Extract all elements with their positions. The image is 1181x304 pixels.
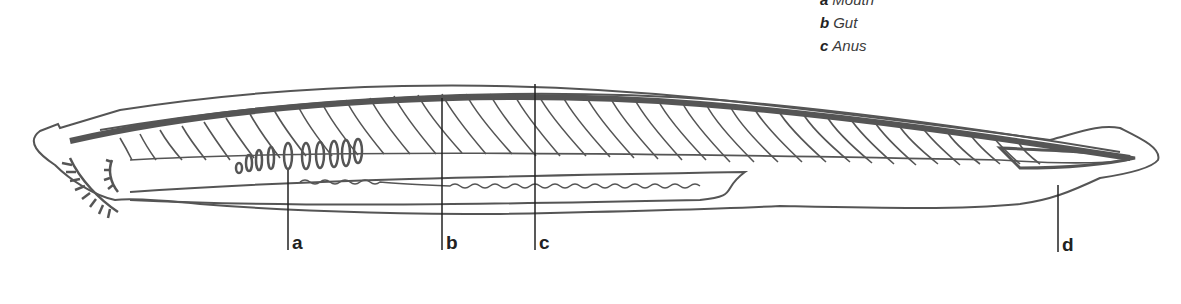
notochord bbox=[70, 97, 1130, 158]
label-a: a bbox=[292, 232, 303, 254]
dorsal-line bbox=[100, 94, 1120, 152]
label-d: d bbox=[1062, 234, 1074, 256]
body-outline bbox=[34, 86, 1159, 215]
oral-cirri bbox=[62, 158, 118, 218]
leader-lines bbox=[288, 84, 1058, 252]
gut-wall bbox=[300, 180, 700, 188]
label-c: c bbox=[539, 232, 550, 254]
label-b: b bbox=[446, 232, 458, 254]
lancelet-diagram bbox=[0, 0, 1181, 304]
gut bbox=[130, 172, 745, 205]
